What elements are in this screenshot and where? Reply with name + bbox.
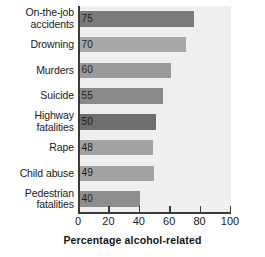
bar-row: 60 — [80, 63, 232, 79]
bar-row: 49 — [80, 166, 232, 182]
bars-container: 7570605550484940 — [80, 6, 232, 212]
bar-value-label: 70 — [82, 40, 93, 50]
category-label: Murders — [0, 65, 74, 77]
category-label: Rape — [0, 142, 74, 154]
x-tick-mark — [108, 206, 109, 212]
bar — [80, 37, 186, 53]
bar — [80, 11, 194, 27]
category-label: Child abuse — [0, 168, 74, 180]
category-axis-labels: On-the-job accidentsDrowningMurdersSuici… — [0, 6, 74, 212]
bar-value-label: 49 — [82, 168, 93, 178]
x-axis-line — [78, 212, 231, 214]
category-label: On-the-job accidents — [0, 7, 74, 30]
bar-value-label: 55 — [82, 91, 93, 101]
x-tick-label: 100 — [210, 215, 250, 227]
category-label: Suicide — [0, 90, 74, 102]
x-tick-mark — [139, 206, 140, 212]
bar-row: 70 — [80, 37, 232, 53]
x-axis-title: Percentage alcohol-related — [0, 234, 265, 246]
bar-row: 40 — [80, 191, 232, 207]
category-label: Pedestrian fatalities — [0, 188, 74, 211]
category-label: Drowning — [0, 39, 74, 51]
bar-row: 48 — [80, 140, 232, 156]
bar-value-label: 60 — [82, 65, 93, 75]
bar-value-label: 48 — [82, 143, 93, 153]
x-tick-mark — [230, 206, 231, 212]
bar — [80, 63, 171, 79]
bar-row: 55 — [80, 88, 232, 104]
bar-row: 75 — [80, 11, 232, 27]
bar-row: 50 — [80, 114, 232, 130]
x-tick-mark — [200, 206, 201, 212]
bar-value-label: 50 — [82, 117, 93, 127]
bar-value-label: 40 — [82, 194, 93, 204]
bar-value-label: 75 — [82, 14, 93, 24]
x-tick-mark — [78, 206, 79, 212]
alcohol-related-bar-chart: On-the-job accidentsDrowningMurdersSuici… — [0, 0, 265, 257]
x-tick-mark — [169, 206, 170, 212]
category-label: Highway fatalities — [0, 110, 74, 133]
